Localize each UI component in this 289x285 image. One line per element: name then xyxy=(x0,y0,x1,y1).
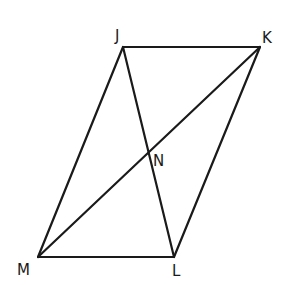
label-j: J xyxy=(114,27,119,45)
diagonal-km xyxy=(38,47,260,257)
segment-mj xyxy=(38,47,123,257)
label-k: K xyxy=(262,29,273,47)
parallelogram-diagram: J K L M N xyxy=(0,0,289,285)
label-m: M xyxy=(17,261,30,279)
label-n: N xyxy=(153,152,164,170)
segment-kl xyxy=(174,47,260,257)
label-l: L xyxy=(172,262,181,280)
